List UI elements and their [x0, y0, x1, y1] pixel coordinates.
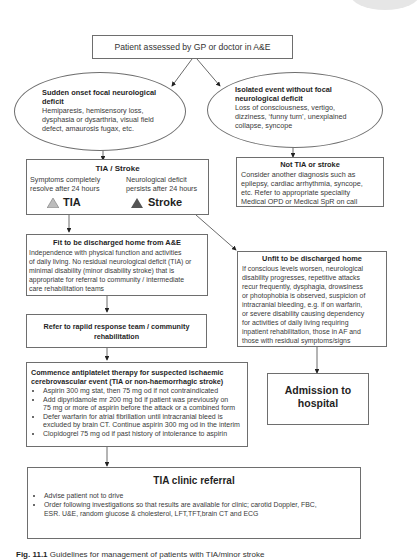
not-tia-line: epilepsy, cardiac arrhythmia, syncope, — [241, 179, 363, 188]
antiplatelet-title: Commence antiplatelet therapy for suspec… — [31, 368, 224, 386]
focal-line: dysphasia or dysarthria, visual field — [42, 115, 154, 124]
isolated-title-line2: neurological deficit — [235, 94, 332, 103]
antiplatelet-item: Defer warfarin for atrial fibrillation u… — [43, 413, 283, 430]
antiplatelet-title-line1: Commence antiplatelet therapy for suspec… — [31, 368, 224, 377]
isolated-line: dizziness, ‘funny turn’, unexplained — [235, 112, 346, 121]
not-tia-title: Not TIA or stroke — [237, 160, 383, 169]
admission-box: Admission to hospital — [267, 373, 369, 425]
focal-line: defect, amaurosis fugax, etc. — [42, 124, 154, 133]
unfit-line: If conscious levels worsen, neurological — [242, 264, 365, 273]
unfit-line: or severe disability causing dependency — [242, 309, 365, 318]
antiplatelet-box: Commence antiplatelet therapy for suspec… — [26, 362, 248, 447]
focal-title-line2: deficit — [42, 97, 156, 106]
not-tia-line: Consider another diagnosis such as — [241, 170, 363, 179]
tia-clinic-title: TIA clinic referral — [28, 475, 360, 486]
fit-line: care rehabilitation teams — [29, 284, 191, 293]
admission-line2: hospital — [268, 397, 368, 410]
unfit-line: recur frequently, dysphagia, drowsiness — [242, 282, 365, 291]
fit-discharge-text: Independence with physical function and … — [29, 248, 191, 293]
unfit-line: disability progresses, repetitive attack… — [242, 273, 365, 282]
focal-line: Hemiparesis, hemisensory loss, — [42, 106, 154, 115]
stroke-description: Neurological deficit persists after 24 h… — [126, 175, 197, 193]
focal-title-line1: Sudden onset focal neurological — [42, 88, 156, 97]
antiplatelet-item: Add dipyridamole mr 200 mg bd if patient… — [43, 396, 283, 413]
tia-label: TIA — [63, 196, 81, 208]
not-tia-line: etc. Refer to appropriate speciality — [241, 188, 363, 197]
refer-line1: Refer to rapiid response team / communit… — [27, 322, 206, 332]
caption-text: Guidelines for management of patients wi… — [50, 550, 265, 559]
fit-line: Independence with physical function and … — [29, 248, 191, 257]
fit-discharge-title: Fit to be discharged home from A&E — [27, 238, 207, 247]
page-corner-shadow — [350, 0, 420, 10]
unfit-line: those with residual symptoms/signs — [242, 336, 365, 345]
tia-clinic-referral-box: TIA clinic referral Advise patient not t… — [27, 467, 361, 539]
start-box: Patient assessed by GP or doctor in A&E — [92, 35, 293, 59]
unfit-discharge-title: Unfit to be discharged home — [238, 254, 386, 263]
unfit-line: or photophobia is observed, suspicion of — [242, 291, 365, 300]
focal-deficit-title: Sudden onset focal neurological deficit — [42, 88, 156, 106]
not-tia-line: Medical OPD or Medical SpR on call — [241, 197, 363, 206]
unfit-discharge-text: If conscious levels worsen, neurological… — [242, 264, 365, 345]
isolated-title-line1: Isolated event without focal — [235, 85, 332, 94]
focal-deficit-text: Hemiparesis, hemisensory loss, dysphasia… — [42, 106, 154, 133]
caption-fig-number: Fig. 11.1 — [16, 550, 48, 559]
tia-stroke-box: TIA / Stroke Symptoms completely resolve… — [26, 159, 209, 215]
tia-stroke-title: TIA / Stroke — [27, 164, 208, 173]
not-tia-text: Consider another diagnosis such as epile… — [241, 170, 363, 206]
isolated-event-text: Loss of consciousness, vertigo, dizzines… — [235, 103, 346, 130]
unfit-line: intracranial bleeding, e.g. if on warfar… — [242, 300, 365, 309]
refer-text: Refer to rapiid response team / communit… — [27, 322, 206, 342]
fit-line: appropriate for referral to community / … — [29, 275, 191, 284]
fit-line: of daily living. No residual neurologica… — [29, 257, 191, 266]
isolated-line: collapse, syncope — [235, 121, 346, 130]
unfit-line: for activities of daily living requiring — [242, 318, 365, 327]
refer-line2: rehabilitation — [27, 332, 206, 342]
fit-discharge-box: Fit to be discharged home from A&E Indep… — [26, 234, 208, 296]
stroke-desc-line: Neurological deficit — [126, 175, 197, 184]
tia-clinic-item: Order following investigations so that r… — [44, 501, 369, 519]
antiplatelet-overflow-mask — [248, 362, 260, 448]
isolated-line: Loss of consciousness, vertigo, — [235, 103, 346, 112]
tia-desc-line: resolve after 24 hours — [30, 184, 100, 193]
antiplatelet-title-line2: cerebrovascular event (TIA or non-haemor… — [31, 377, 224, 386]
stroke-label: Stroke — [148, 196, 182, 208]
antiplatelet-list: Aspirin 300 mg stat, then 75 mg od if no… — [31, 387, 283, 439]
start-label: Patient assessed by GP or doctor in A&E — [93, 36, 292, 58]
admission-text: Admission to hospital — [268, 384, 368, 410]
tia-clinic-list: Advise patient not to drive Order follow… — [32, 492, 369, 518]
tia-desc-line: Symptoms completely — [30, 175, 100, 184]
isolated-event-title: Isolated event without focal neurologica… — [235, 85, 332, 103]
figure-caption: Fig. 11.1 Guidelines for management of p… — [16, 550, 264, 560]
stroke-triangle-icon — [131, 198, 143, 208]
not-tia-box: Not TIA or stroke Consider another diagn… — [236, 157, 384, 207]
stroke-desc-line: persists after 24 hours — [126, 184, 197, 193]
tia-clinic-item: Advise patient not to drive — [44, 492, 369, 501]
fit-line: minimal disability (minor disability str… — [29, 266, 191, 275]
unfit-discharge-box: Unfit to be discharged home If conscious… — [237, 251, 387, 347]
tia-triangle-icon — [47, 198, 59, 208]
tia-description: Symptoms completely resolve after 24 hou… — [30, 175, 100, 193]
refer-rapid-response-box: Refer to rapiid response team / communit… — [26, 314, 207, 348]
admission-line1: Admission to — [268, 384, 368, 397]
unfit-line: inpatient rehabilitation, those in AF an… — [242, 327, 365, 336]
antiplatelet-item: Aspirin 300 mg stat, then 75 mg od if no… — [43, 387, 283, 396]
antiplatelet-item: Clopidogrel 75 mg od if past history of … — [43, 430, 283, 439]
